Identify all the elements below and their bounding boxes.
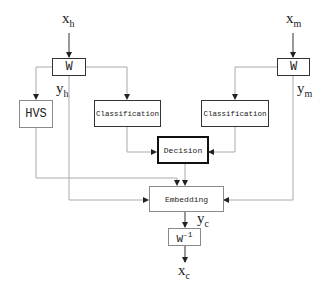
- input-xm-label: xm: [286, 10, 301, 29]
- classification-mark-block: Classification: [201, 100, 269, 127]
- transform-w-host-label: W: [65, 60, 72, 74]
- yc-label: yc: [197, 210, 209, 229]
- decision-block: Decision: [157, 136, 209, 164]
- embedding-label: Embedding: [165, 195, 208, 204]
- decision-label: Decision: [164, 146, 202, 155]
- hvs-block: HVS: [19, 100, 53, 128]
- inverse-transform-block: W-1: [168, 228, 201, 246]
- transform-w-mark: W: [277, 58, 310, 76]
- ym-label: ym: [297, 80, 312, 99]
- input-xh-label: xh: [62, 10, 75, 29]
- embedding-block: Embedding: [149, 186, 224, 212]
- classification-host-block: Classification: [94, 100, 161, 127]
- transform-w-mark-label: W: [290, 60, 297, 74]
- output-xc-label: xc: [178, 262, 190, 281]
- classification-host-label: Classification: [96, 110, 159, 118]
- transform-w-host: W: [52, 58, 86, 76]
- hvs-label: HVS: [25, 107, 47, 121]
- yh-label: yh: [56, 80, 69, 99]
- classification-mark-label: Classification: [203, 110, 266, 118]
- inverse-transform-label: W-1: [176, 230, 192, 245]
